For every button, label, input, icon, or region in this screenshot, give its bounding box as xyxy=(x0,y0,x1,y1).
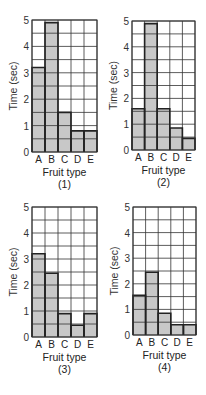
bar-a xyxy=(32,68,45,152)
y-tick-label: 3 xyxy=(23,254,29,265)
bar-chart-1: 012345ABCDEFruit type(1)Time (sec) xyxy=(0,0,103,195)
bar-b xyxy=(45,273,58,337)
y-tick-label: 1 xyxy=(23,121,29,132)
y-axis-title: Time (sec) xyxy=(108,246,120,295)
y-tick-label: 5 xyxy=(23,202,29,213)
y-tick-label: 2 xyxy=(23,280,29,291)
bar-b xyxy=(145,24,158,150)
bar-e xyxy=(84,131,97,152)
x-category-label: B xyxy=(48,339,55,350)
y-tick-label: 2 xyxy=(123,93,129,104)
bar-e xyxy=(84,314,97,337)
bar-d xyxy=(71,131,84,152)
bar-chart-4: 012345ABCDEFruit type(4)Time (sec) xyxy=(100,187,203,382)
x-category-label: A xyxy=(136,337,143,348)
x-category-label: E xyxy=(87,339,94,350)
y-tick-label: 0 xyxy=(23,147,29,158)
panel-number: (3) xyxy=(58,363,71,375)
chart-panel-4: 012345ABCDEFruit type(4)Time (sec) xyxy=(100,187,203,382)
x-category-label: E xyxy=(185,152,192,163)
chart-panel-1: 012345ABCDEFruit type(1)Time (sec) xyxy=(0,0,103,195)
y-tick-label: 1 xyxy=(124,304,130,315)
y-tick-label: 0 xyxy=(23,332,29,343)
x-category-label: B xyxy=(148,152,155,163)
bar-d xyxy=(71,325,84,337)
panel-number: (4) xyxy=(158,361,171,373)
y-axis-title: Time (sec) xyxy=(7,61,19,110)
y-tick-label: 3 xyxy=(23,68,29,79)
y-tick-label: 0 xyxy=(123,145,129,156)
x-category-label: C xyxy=(61,154,68,165)
bars xyxy=(133,272,196,335)
bar-d xyxy=(171,325,184,335)
bar-c xyxy=(157,109,170,150)
x-axis-title: Fruit type xyxy=(43,166,87,178)
y-axis-title: Time (sec) xyxy=(7,247,19,296)
x-category-label: E xyxy=(87,154,94,165)
bar-chart-3: 012345ABCDEFruit type(3)Time (sec) xyxy=(0,187,103,382)
x-category-label: C xyxy=(160,152,167,163)
y-tick-label: 4 xyxy=(123,42,129,53)
y-tick-label: 5 xyxy=(124,202,130,213)
x-category-label: A xyxy=(35,154,42,165)
y-tick-label: 4 xyxy=(124,228,130,239)
bar-a xyxy=(133,295,146,335)
x-category-label: D xyxy=(74,339,81,350)
chart-panel-3: 012345ABCDEFruit type(3)Time (sec) xyxy=(0,187,103,382)
x-category-label: C xyxy=(61,339,68,350)
x-category-label: D xyxy=(74,154,81,165)
x-category-label: A xyxy=(135,152,142,163)
bar-b xyxy=(146,272,159,335)
y-tick-label: 4 xyxy=(23,41,29,52)
y-tick-label: 1 xyxy=(123,119,129,130)
y-tick-label: 5 xyxy=(23,15,29,26)
x-axis-title: Fruit type xyxy=(43,351,87,363)
bars xyxy=(132,24,195,150)
x-category-label: E xyxy=(186,337,193,348)
x-axis-title: Fruit type xyxy=(142,164,186,176)
y-tick-label: 2 xyxy=(124,279,130,290)
bar-e xyxy=(183,325,196,335)
bar-a xyxy=(132,109,145,150)
x-axis-title: Fruit type xyxy=(143,349,187,361)
y-tick-label: 5 xyxy=(123,16,129,27)
bar-c xyxy=(58,112,71,152)
y-tick-label: 3 xyxy=(124,253,130,264)
x-category-label: D xyxy=(172,152,179,163)
chart-panel-2: 012345ABCDEFruit type(2)Time (sec) xyxy=(100,0,203,195)
y-axis-title: Time (sec) xyxy=(107,61,119,110)
x-category-label: C xyxy=(161,337,168,348)
bars xyxy=(32,254,97,337)
x-category-label: A xyxy=(35,339,42,350)
bar-c xyxy=(158,313,171,335)
x-category-label: B xyxy=(149,337,156,348)
bar-chart-2: 012345ABCDEFruit type(2)Time (sec) xyxy=(100,0,203,195)
bar-b xyxy=(45,23,58,152)
y-tick-label: 2 xyxy=(23,94,29,105)
bar-e xyxy=(182,138,195,150)
y-tick-label: 0 xyxy=(124,330,130,341)
x-category-label: D xyxy=(173,337,180,348)
bar-d xyxy=(170,128,183,150)
x-category-label: B xyxy=(48,154,55,165)
bars xyxy=(32,23,97,152)
bar-c xyxy=(58,314,71,337)
bar-a xyxy=(32,254,45,337)
y-tick-label: 3 xyxy=(123,68,129,79)
y-tick-label: 1 xyxy=(23,306,29,317)
y-tick-label: 4 xyxy=(23,228,29,239)
